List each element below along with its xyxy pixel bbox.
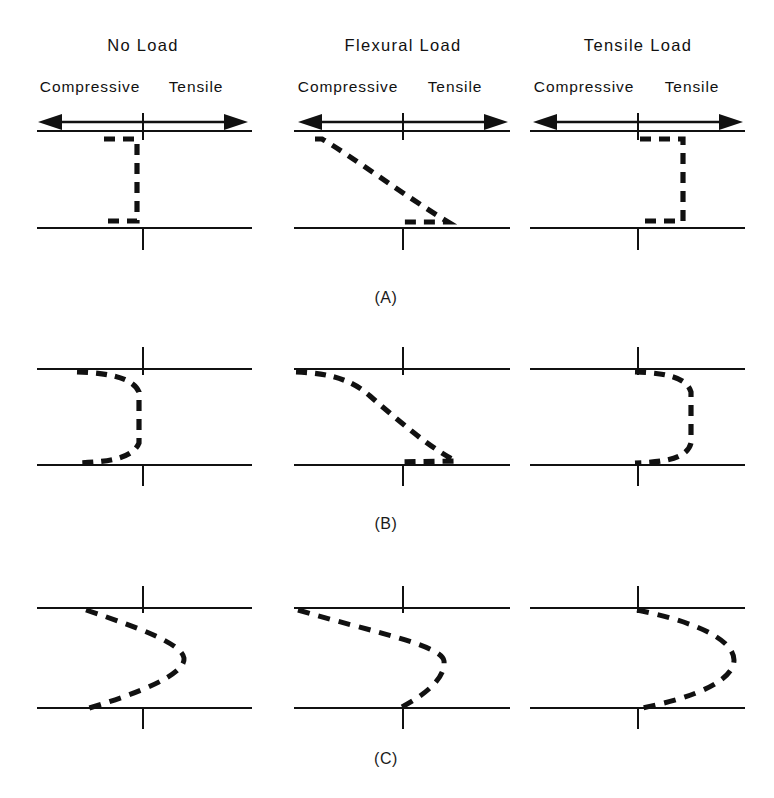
axis-label-tensile-col1: Tensile [169,78,224,95]
axis-label-tensile-col2: Tensile [428,78,483,95]
row-c-axes [37,586,745,729]
row-label-a: (A) [374,289,397,306]
row-c-profiles [86,610,734,709]
axis-label-tensile-col3: Tensile [665,78,720,95]
profile-b-tensile-load [635,372,691,463]
axis-label-compressive-col3: Compressive [534,78,634,95]
profile-a-flexural-load [315,139,448,222]
column-headers: No Load Flexural Load Tensile Load Compr… [40,36,719,95]
row-a-profiles [104,139,683,222]
row-a-axes [37,113,745,250]
figure-canvas: No Load Flexural Load Tensile Load Compr… [0,0,774,798]
row-b-profiles [77,372,691,463]
axis-label-compressive-col2: Compressive [298,78,398,95]
profile-a-tensile-load [640,139,683,221]
profile-c-tensile-load [637,610,734,709]
column-title-no-load: No Load [107,36,178,54]
profile-c-no-load [86,610,184,709]
row-label-b: (B) [374,515,397,532]
column-title-tensile-load: Tensile Load [584,36,692,54]
profile-b-no-load [77,372,139,463]
stress-profile-figure: No Load Flexural Load Tensile Load Compr… [0,0,774,798]
row-label-c: (C) [374,750,398,767]
axis-label-compressive-col1: Compressive [40,78,140,95]
profile-c-flexural-load [298,610,444,709]
profile-b-flexural-load [296,372,456,462]
profile-a-no-load [104,139,137,221]
column-title-flexural-load: Flexural Load [345,36,462,54]
